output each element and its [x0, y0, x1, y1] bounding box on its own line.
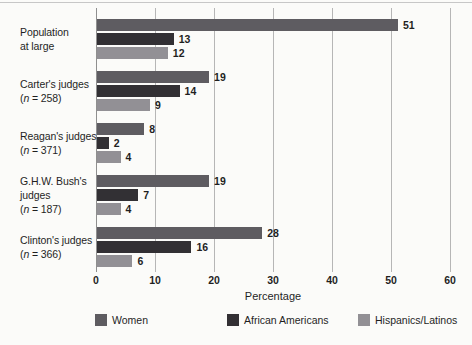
bar-value-label: 28	[267, 227, 279, 239]
bar-hispanics-latinos	[97, 47, 168, 59]
bar-women	[97, 123, 144, 135]
legend-item: Hispanics/Latinos	[358, 314, 457, 326]
bar-value-label: 9	[155, 99, 161, 111]
bar-african-americans	[97, 137, 109, 149]
bar-hispanics-latinos	[97, 255, 132, 267]
x-tick-label: 60	[444, 274, 456, 286]
legend-label: Hispanics/Latinos	[375, 314, 457, 326]
x-tick-label: 30	[267, 274, 279, 286]
gridline	[450, 8, 451, 272]
bar-african-americans	[97, 85, 180, 97]
bar-women	[97, 227, 262, 239]
x-tick-label: 10	[149, 274, 161, 286]
bar-value-label: 2	[114, 137, 120, 149]
legend-swatch	[95, 314, 107, 326]
bar-value-label: 51	[403, 19, 415, 31]
gridline	[332, 8, 333, 272]
bar-value-label: 4	[126, 203, 132, 215]
category-label: Reagan's judges(n = 371)	[20, 129, 96, 157]
legend-label: Women	[112, 314, 148, 326]
bar-african-americans	[97, 241, 191, 253]
bar-women	[97, 71, 209, 83]
bar-women	[97, 19, 398, 31]
bar-hispanics-latinos	[97, 203, 121, 215]
gridline	[391, 8, 392, 272]
bar-value-label: 19	[214, 71, 226, 83]
bar-value-label: 12	[173, 47, 185, 59]
bar-women	[97, 175, 209, 187]
bar-value-label: 4	[126, 151, 132, 163]
category-label: Carter's judges(n = 258)	[20, 77, 89, 105]
bar-value-label: 14	[185, 85, 197, 97]
x-axis-title: Percentage	[96, 290, 450, 302]
category-label: G.H.W. Bush'sjudges(n = 187)	[20, 174, 87, 216]
x-tick-label: 40	[326, 274, 338, 286]
legend-item: African Americans	[227, 314, 329, 326]
bar-chart-figure: 51131219149824197428166 Percentage Women…	[0, 0, 472, 345]
category-label: Populationat large	[20, 25, 69, 53]
x-tick-label: 0	[93, 274, 99, 286]
legend-swatch	[227, 314, 239, 326]
bar-hispanics-latinos	[97, 99, 150, 111]
bar-value-label: 16	[196, 241, 208, 253]
bar-value-label: 8	[149, 123, 155, 135]
x-tick-label: 20	[208, 274, 220, 286]
bar-value-label: 13	[179, 33, 191, 45]
plot-area: 51131219149824197428166	[96, 8, 450, 272]
bar-african-americans	[97, 33, 174, 45]
legend-item: Women	[95, 314, 148, 326]
x-tick-label: 50	[385, 274, 397, 286]
category-label: Clinton's judges(n = 366)	[20, 233, 92, 261]
bar-value-label: 7	[143, 189, 149, 201]
legend-swatch	[358, 314, 370, 326]
bar-value-label: 6	[137, 255, 143, 267]
bar-african-americans	[97, 189, 138, 201]
top-rule-divider	[0, 2, 472, 3]
bar-hispanics-latinos	[97, 151, 121, 163]
legend-label: African Americans	[244, 314, 329, 326]
bar-value-label: 19	[214, 175, 226, 187]
